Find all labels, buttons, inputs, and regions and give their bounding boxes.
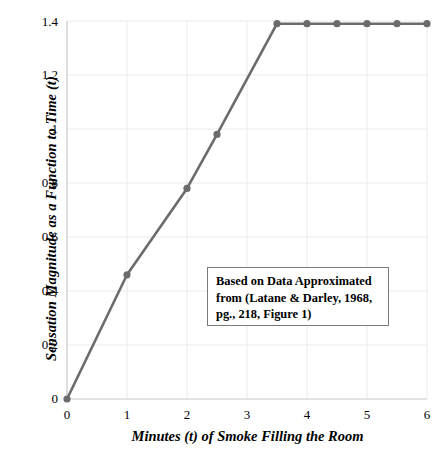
plot-area xyxy=(0,0,441,457)
x-axis-title: Minutes (t) of Smoke Filling the Room xyxy=(60,428,435,445)
annotation-line-2: from (Latane & Darley, 1968, xyxy=(216,290,381,307)
annotation-line-1: Based on Data Approximated xyxy=(216,273,381,290)
source-annotation-box: Based on Data Approximated from (Latane … xyxy=(207,267,389,326)
chart-figure: Sensation Magnitude as a Function to Tim… xyxy=(0,0,441,457)
annotation-line-3: pg., 218, Figure 1) xyxy=(216,306,381,323)
